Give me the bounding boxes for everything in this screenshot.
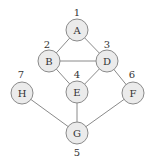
node-number: 5 — [74, 147, 80, 158]
node-label: E — [73, 87, 80, 98]
node-d: D3 — [96, 39, 118, 73]
node-number: 4 — [74, 69, 80, 80]
node-label: A — [72, 25, 81, 36]
node-number: 1 — [74, 7, 80, 18]
node-a: A1 — [66, 7, 88, 42]
node-h: H7 — [11, 69, 33, 105]
node-number: 6 — [129, 69, 135, 80]
node-number: 2 — [44, 39, 50, 50]
node-label: B — [45, 56, 52, 67]
node-f: F6 — [122, 69, 144, 105]
node-label: D — [103, 56, 111, 67]
node-b: B2 — [38, 39, 60, 73]
graph-diagram: A1B2D3E4H7F6G5 — [0, 0, 150, 161]
node-number: 3 — [104, 39, 110, 50]
node-label: G — [73, 128, 81, 139]
node-number: 7 — [18, 69, 24, 80]
node-label: F — [130, 88, 137, 99]
node-e: E4 — [66, 69, 88, 104]
node-label: H — [18, 88, 27, 99]
node-g: G5 — [66, 122, 88, 158]
